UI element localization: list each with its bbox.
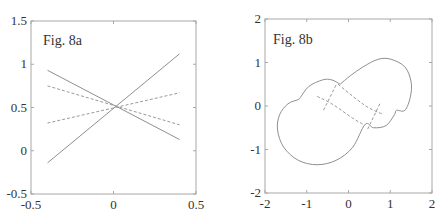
y-tick-label: 1.5 bbox=[11, 13, 27, 28]
y-tick-label: 0 bbox=[21, 143, 28, 158]
series-solid-descending bbox=[48, 70, 180, 139]
x-tick-label: 0 bbox=[110, 197, 117, 212]
plot-series bbox=[277, 58, 411, 164]
y-tick-label: 1 bbox=[255, 55, 262, 70]
y-tick-label: 0 bbox=[255, 98, 262, 113]
series-dashed-cross-left bbox=[323, 85, 336, 110]
x-tick-label: -1 bbox=[301, 196, 312, 211]
x-tick-label: 2 bbox=[429, 196, 436, 211]
axis-ticks: -0.500.5-0.500.511.5 bbox=[6, 13, 204, 212]
y-tick-label: -1 bbox=[250, 142, 261, 157]
y-tick-label: -0.5 bbox=[6, 186, 27, 201]
y-tick-label: -2 bbox=[250, 185, 261, 200]
chart-fig-8b: -2-1012-2-1012 Fig. 8b bbox=[250, 11, 435, 211]
y-tick-label: 1 bbox=[21, 56, 28, 71]
y-tick-label: 2 bbox=[255, 11, 262, 26]
figure-canvas: -0.500.5-0.500.511.5 Fig. 8a -2-1012-2-1… bbox=[0, 0, 443, 219]
x-tick-label: -2 bbox=[260, 196, 271, 211]
plot-series bbox=[48, 54, 180, 163]
y-tick-label: 0.5 bbox=[11, 100, 27, 115]
figure-label: Fig. 8b bbox=[273, 32, 313, 47]
x-tick-label: 0 bbox=[345, 196, 352, 211]
series-dashed-curve-upper bbox=[338, 84, 382, 114]
series-dashed-cross-right bbox=[367, 104, 380, 130]
series-dashed-curve-lower bbox=[317, 96, 363, 124]
x-tick-label: 1 bbox=[387, 196, 394, 211]
series-closed-contour bbox=[277, 58, 411, 164]
x-tick-label: 0.5 bbox=[188, 197, 204, 212]
figure-label: Fig. 8a bbox=[43, 33, 83, 48]
chart-fig-8a: -0.500.5-0.500.511.5 Fig. 8a bbox=[6, 13, 204, 212]
